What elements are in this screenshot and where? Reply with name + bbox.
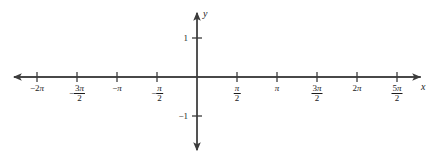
x-tick-label: −π2 <box>151 84 163 104</box>
pi-symbol: π <box>357 83 362 93</box>
fraction-denominator: 2 <box>156 94 163 103</box>
fraction-denominator: 2 <box>74 94 85 103</box>
fraction: π2 <box>234 84 241 104</box>
x-tick-label: 3π2 <box>311 84 322 104</box>
x-tick-label: −2π <box>30 84 44 93</box>
x-tick-label: 5π2 <box>391 84 402 104</box>
pi-symbol: π <box>117 83 122 93</box>
coordinate-plane-figure: −2π−3π2−π−π2π2π3π22π5π2 1−1 x y <box>0 0 433 157</box>
y-tick-label: −1 <box>178 112 188 121</box>
pi-symbol: π <box>235 83 240 93</box>
pi-symbol: π <box>397 83 402 93</box>
x-tick-label: −π <box>112 84 122 93</box>
pi-symbol: π <box>157 83 162 93</box>
fraction: 3π2 <box>311 84 322 104</box>
fraction: π2 <box>156 84 163 104</box>
scalar-value: −2π <box>30 84 44 93</box>
axes-svg <box>0 0 433 157</box>
y-axis-label: y <box>203 9 207 19</box>
y-tick-label: 1 <box>184 34 189 43</box>
scalar-value: −π <box>112 84 122 93</box>
x-tick-label: 2π <box>352 84 361 93</box>
fraction-denominator: 2 <box>311 94 322 103</box>
scalar-value: 2π <box>352 84 361 93</box>
pi-symbol: π <box>317 83 322 93</box>
fraction: 3π2 <box>74 84 85 104</box>
fraction-denominator: 2 <box>234 94 241 103</box>
scalar-value: π <box>275 84 280 93</box>
x-tick-label: π <box>275 84 280 93</box>
x-axis-label: x <box>421 82 425 92</box>
x-tick-label: π2 <box>234 84 241 104</box>
pi-symbol: π <box>40 83 45 93</box>
fraction: 5π2 <box>391 84 402 104</box>
pi-symbol: π <box>275 83 280 93</box>
fraction-denominator: 2 <box>391 94 402 103</box>
pi-symbol: π <box>80 83 85 93</box>
x-tick-label: −3π2 <box>69 84 85 104</box>
